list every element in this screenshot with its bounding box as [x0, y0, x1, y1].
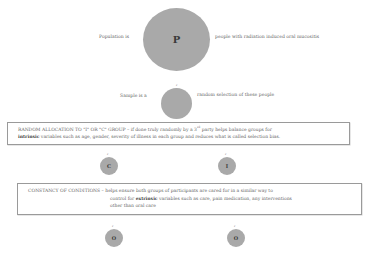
outcome-control-marker: r	[112, 225, 113, 228]
outcome-intervention-circle: O	[227, 229, 245, 247]
random-allocation-box: RANDOM ALLOCATION TO "I" OR "C" GROUP – …	[7, 122, 350, 145]
sample-description: random selection of these people	[197, 92, 274, 98]
population-symbol: P	[173, 34, 181, 45]
intervention-marker: r	[225, 153, 226, 156]
population-label: Population is	[99, 34, 129, 40]
sample-label: Sample is a	[120, 93, 147, 99]
outcome-intervention-marker: r	[234, 225, 235, 228]
control-marker: r	[107, 153, 108, 156]
sample-marker: r	[176, 84, 177, 87]
population-description: people with radiation induced oral mucos…	[215, 34, 319, 40]
random-allocation-heading: RANDOM ALLOCATION TO "I" OR "C" GROUP	[18, 127, 126, 132]
intervention-group-circle: I	[218, 157, 236, 175]
population-circle: P	[143, 8, 210, 71]
extrinsic-keyword: extrinsic	[136, 196, 158, 201]
intrinsic-keyword: intrinsic	[18, 134, 39, 139]
sample-circle	[161, 88, 192, 119]
constancy-heading: CONSTANCY OF CONDITIONS	[28, 188, 100, 193]
constancy-box: CONSTANCY OF CONDITIONS – helps ensure b…	[17, 183, 362, 215]
outcome-control-circle: O	[105, 229, 123, 247]
control-group-circle: C	[100, 157, 118, 175]
